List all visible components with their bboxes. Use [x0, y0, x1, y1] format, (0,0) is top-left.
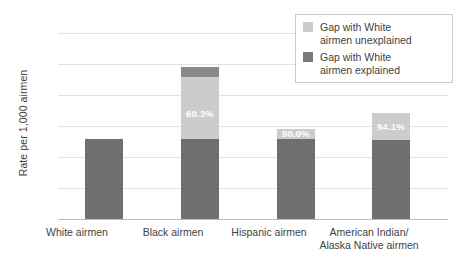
legend-swatch-explained-icon: [303, 52, 313, 62]
legend-swatch-unexplained-icon: [303, 22, 313, 32]
bar-segment-cap: [181, 67, 219, 77]
x-tick-american-indian-alaska-native-airmen: American Indian/ Alaska Native airmen: [306, 226, 432, 251]
legend-item-unexplained[interactable]: Gap with White airmen unexplained: [303, 21, 445, 46]
bar-segment-explained: [85, 139, 123, 219]
axis-baseline: [58, 219, 448, 220]
bar-segment-explained: [372, 140, 410, 219]
bar-chart: Rate per 1,000 airmen 60 50 40 30 20 10 …: [0, 0, 459, 266]
bar-hispanic-airmen[interactable]: 90.0%: [277, 129, 315, 219]
bar-black-airmen[interactable]: 60.3%: [181, 67, 219, 219]
bar-data-label: 94.1%: [372, 121, 410, 132]
bar-white-airmen[interactable]: [85, 139, 123, 219]
bar-american-indian-alaska-native-airmen[interactable]: 94.1%: [372, 113, 410, 219]
x-tick-black-airmen: Black airmen: [120, 226, 226, 239]
legend-item-explained[interactable]: Gap with White airmen explained: [303, 51, 445, 76]
y-axis-title: Rate per 1,000 airmen: [17, 43, 29, 203]
x-tick-white-airmen: White airmen: [24, 226, 130, 239]
bar-segment-explained: [181, 139, 219, 219]
legend-label-unexplained: Gap with White airmen unexplained: [320, 21, 412, 46]
legend: Gap with White airmen unexplained Gap wi…: [295, 14, 453, 83]
bar-data-label: 90.0%: [277, 128, 315, 139]
bar-data-label: 60.3%: [181, 108, 219, 119]
legend-label-explained: Gap with White airmen explained: [320, 51, 400, 76]
bar-segment-explained: [277, 139, 315, 219]
gridline-40: [58, 95, 448, 96]
